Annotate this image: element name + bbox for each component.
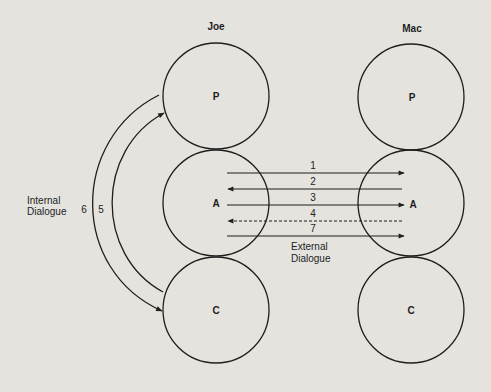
mac-adult-label: A [409, 199, 416, 210]
transaction-number-2: 2 [310, 176, 316, 187]
joe-adult-label: A [212, 198, 219, 209]
person-name-joe: Joe [207, 21, 225, 32]
joe-parent-label: P [213, 91, 220, 102]
transaction-number-4: 4 [310, 208, 316, 219]
internal-dialogue-label-2: Dialogue [27, 206, 67, 217]
internal-arc-number-5: 5 [98, 204, 104, 215]
mac-child-label: C [407, 305, 414, 316]
transaction-number-3: 3 [310, 192, 316, 203]
external-dialogue-label-1: External [291, 241, 328, 252]
internal-arc-6 [93, 95, 162, 311]
transaction-number-1: 1 [310, 160, 316, 171]
joe-child-label: C [212, 305, 219, 316]
external-dialogue-label-2: Dialogue [291, 253, 331, 264]
internal-arc-5 [112, 113, 164, 292]
transaction-diagram: Joe Mac P A C P A C Internal Dialogue 6 … [0, 0, 491, 392]
person-name-mac: Mac [402, 23, 422, 34]
internal-dialogue-label-1: Internal [27, 195, 60, 206]
transaction-number-7: 7 [310, 223, 316, 234]
mac-parent-label: P [409, 92, 416, 103]
internal-arc-number-6: 6 [81, 204, 87, 215]
